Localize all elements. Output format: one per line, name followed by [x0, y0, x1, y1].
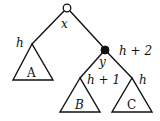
subtree-A-label: A: [26, 66, 36, 80]
tree-diagram: x y h + 2 h A h + 1 B h C: [0, 0, 160, 121]
subtree-C-label: C: [127, 98, 136, 112]
edge-x-y: [70, 11, 104, 48]
subtree-B-label: B: [74, 98, 84, 112]
subtree-C-height-label: h: [139, 73, 147, 87]
subtree-A-height-label: h: [16, 36, 24, 50]
node-x: [63, 4, 71, 12]
node-x-label: x: [61, 17, 68, 31]
node-y-height-label: h + 2: [119, 44, 152, 58]
node-y-label: y: [98, 55, 106, 69]
subtree-B-height-label: h + 1: [87, 73, 120, 87]
node-y: [101, 46, 109, 54]
edge-x-A: [32, 11, 64, 44]
